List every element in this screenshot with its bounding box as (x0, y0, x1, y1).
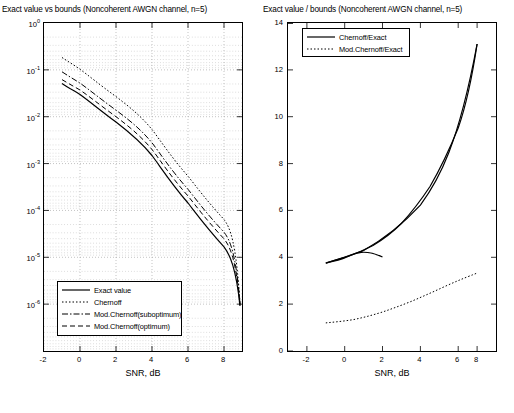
left-xtick-0: -2 (33, 355, 53, 364)
right-xtick-2: 2 (372, 355, 392, 364)
legend-sample-dotted (61, 297, 91, 307)
left-xtick-2: 2 (105, 355, 125, 364)
legend-label-mod-chernoff-optimum: Mod.Chernoff(optimum) (94, 322, 170, 331)
right-xtick-1: 0 (334, 355, 354, 364)
legend-sample-solid (61, 285, 91, 295)
legend-item-chernoff-exact: Chernoff/Exact (306, 31, 406, 43)
right-ytick-7: 14 (259, 18, 283, 27)
right-ytick-6: 12 (259, 65, 283, 74)
left-ytick-5: 10-5 (12, 252, 40, 263)
left-legend: Exact value Chernoff Mod.Chernoff(subopt… (57, 281, 182, 336)
left-series-chernoff (62, 58, 240, 304)
right-xaxis-label: SNR, dB (352, 368, 432, 378)
right-ytick-3: 6 (259, 205, 283, 214)
figure-container: Exact value vs bounds (Noncoherent AWGN … (0, 0, 514, 413)
right-legend: Chernoff/Exact Mod.Chernoff/Exact (302, 28, 410, 57)
right-ytick-5: 10 (259, 112, 283, 121)
right-xtick-0: -2 (296, 355, 316, 364)
left-series-exact-value (62, 83, 240, 306)
legend-sample-dotted (306, 44, 336, 54)
right-plot-area (287, 22, 497, 352)
left-chart-panel: Exact value vs bounds (Noncoherent AWGN … (0, 0, 257, 413)
right-series-chernoff-exact (326, 44, 477, 263)
legend-label-chernoff: Chernoff (94, 298, 121, 307)
left-ytick-2: 10-2 (12, 112, 40, 123)
right-chart-title: Exact value / bounds (Noncoherent AWGN c… (263, 5, 462, 14)
legend-item-chernoff: Chernoff (61, 296, 178, 308)
right-ytick-4: 8 (259, 159, 283, 168)
right-series-chernoff-exact-main (326, 44, 477, 263)
right-ytick-0: 0 (259, 346, 283, 355)
left-chart-title: Exact value vs bounds (Noncoherent AWGN … (2, 5, 207, 14)
left-ytick-3: 10-3 (12, 159, 40, 170)
right-xtick-5: 8 (466, 355, 486, 364)
left-series-mod-chernoff-optimum (62, 80, 240, 305)
left-xaxis-label: SNR, dB (103, 368, 183, 378)
left-ytick-0: 100 (12, 18, 40, 29)
left-ytick-1: 10-1 (12, 65, 40, 76)
left-xtick-1: 0 (69, 355, 89, 364)
right-plot-svg (288, 23, 496, 351)
left-xtick-5: 8 (213, 355, 233, 364)
left-ytick-6: 10-6 (12, 299, 40, 310)
legend-item-mod-chernoff-suboptimum: Mod.Chernoff(suboptimum) (61, 308, 178, 320)
right-ytick-2: 4 (259, 252, 283, 261)
legend-sample-dashdot (61, 309, 91, 319)
right-xtick-4: 6 (447, 355, 467, 364)
right-ytick-1: 2 (259, 299, 283, 308)
left-xtick-3: 4 (141, 355, 161, 364)
legend-item-mod-chernoff-exact: Mod.Chernoff/Exact (306, 43, 406, 55)
legend-sample-solid (306, 32, 336, 42)
legend-item-exact-value: Exact value (61, 284, 178, 296)
right-axis-ticks (288, 23, 496, 351)
legend-item-mod-chernoff-optimum: Mod.Chernoff(optimum) (61, 320, 178, 332)
legend-label-exact-value: Exact value (94, 286, 131, 295)
left-xtick-4: 6 (177, 355, 197, 364)
left-series-mod-chernoff-suboptimum (62, 72, 240, 304)
left-ytick-4: 10-4 (12, 205, 40, 216)
legend-label-chernoff-exact: Chernoff/Exact (339, 33, 386, 42)
right-xtick-3: 4 (409, 355, 429, 364)
right-chart-panel: Exact value / bounds (Noncoherent AWGN c… (257, 0, 514, 413)
legend-label-mod-chernoff-suboptimum: Mod.Chernoff(suboptimum) (94, 310, 181, 319)
legend-sample-dashed (61, 321, 91, 331)
legend-label-mod-chernoff-exact: Mod.Chernoff/Exact (339, 45, 402, 54)
right-series-mod-chernoff-exact (326, 273, 477, 323)
